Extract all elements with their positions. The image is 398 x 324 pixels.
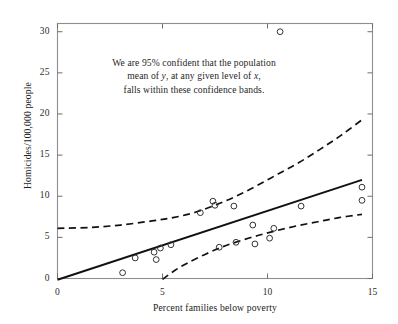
data-point bbox=[153, 257, 159, 263]
data-point bbox=[298, 203, 304, 209]
x-tick-label: 15 bbox=[361, 287, 385, 297]
annotation-line-2-post: , bbox=[258, 70, 261, 81]
y-tick-label: 30 bbox=[26, 26, 50, 36]
annotation-line-2: mean of y, at any given level of x, bbox=[68, 69, 320, 82]
y-tick-label: 25 bbox=[26, 67, 50, 77]
x-tick-label: 10 bbox=[256, 287, 280, 297]
annotation-line-2-mid: , at any given level of bbox=[166, 70, 254, 81]
least-squares-line bbox=[58, 180, 363, 280]
data-point bbox=[120, 270, 126, 276]
annotation-line-1: We are 95% confident that the population bbox=[68, 56, 320, 69]
annotation-line-2-pre: mean of bbox=[127, 70, 161, 81]
x-axis-label: Percent families below poverty bbox=[57, 302, 373, 313]
x-tick-label: 0 bbox=[46, 287, 70, 297]
annotation-line-3: falls within these confidence bands. bbox=[68, 83, 320, 96]
y-tick-label: 20 bbox=[26, 108, 50, 118]
data-point bbox=[216, 244, 222, 250]
y-tick-label: 15 bbox=[26, 149, 50, 159]
data-point bbox=[250, 222, 256, 228]
data-point bbox=[359, 184, 365, 190]
x-tick-label: 5 bbox=[151, 287, 175, 297]
data-point bbox=[267, 235, 273, 241]
data-point bbox=[277, 29, 283, 35]
regression-line bbox=[58, 180, 363, 280]
data-point bbox=[271, 225, 277, 231]
y-tick-label: 10 bbox=[26, 190, 50, 200]
data-point bbox=[231, 203, 237, 209]
data-point bbox=[359, 197, 365, 203]
confidence-band-annotation: We are 95% confident that the population… bbox=[68, 56, 320, 96]
y-tick-label: 0 bbox=[26, 273, 50, 283]
upper-confidence-band bbox=[58, 120, 363, 229]
y-tick-label: 5 bbox=[26, 231, 50, 241]
lower-confidence-band bbox=[163, 214, 363, 279]
chart-figure: Homicides/100,000 people Percent familie… bbox=[0, 0, 398, 324]
data-point bbox=[151, 249, 157, 255]
data-point bbox=[252, 241, 258, 247]
confidence-bands bbox=[58, 120, 363, 280]
scatter-plot-canvas bbox=[0, 0, 398, 324]
data-point bbox=[132, 255, 138, 261]
